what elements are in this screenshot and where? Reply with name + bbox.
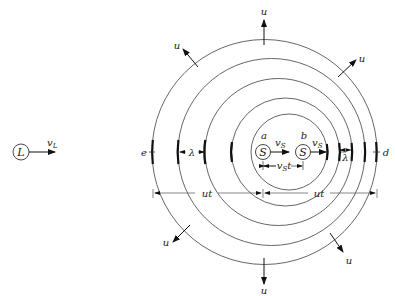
point-e-label: e <box>141 147 147 158</box>
source-b-symbol: S <box>299 146 307 159</box>
u-label-bottom-right: u <box>346 255 352 266</box>
source-b-velocity-label: vS <box>312 137 323 150</box>
source-displacement-label: vSt <box>277 160 292 173</box>
ut-right-label: ut <box>314 188 325 199</box>
source-b-label: b <box>301 130 307 141</box>
wavelength-right-label: λ <box>341 152 348 163</box>
u-label-top: u <box>261 6 267 17</box>
u-label-bottom: u <box>261 285 267 296</box>
source-b: S b vS <box>296 130 327 160</box>
doppler-diagram: L vL S a vS S b vS vSt e d λ <box>0 0 395 296</box>
source-a: S a vS <box>256 130 290 160</box>
point-d-label: d <box>383 147 389 158</box>
wavelength-left-label: λ <box>188 147 195 158</box>
listener-label: L <box>16 146 24 159</box>
u-label-bottom-left: u <box>163 237 169 248</box>
source-a-symbol: S <box>259 146 267 159</box>
u-arrow-top-left <box>183 49 198 67</box>
u-arrow-top-right <box>338 60 356 77</box>
listener-velocity-label: vL <box>47 137 58 150</box>
ut-left-label: ut <box>202 188 213 199</box>
listener: L vL <box>13 137 58 160</box>
u-label-top-right: u <box>359 53 365 64</box>
u-label-top-left: u <box>174 40 180 51</box>
source-a-velocity-label: vS <box>275 137 286 150</box>
source-a-label: a <box>261 130 267 141</box>
